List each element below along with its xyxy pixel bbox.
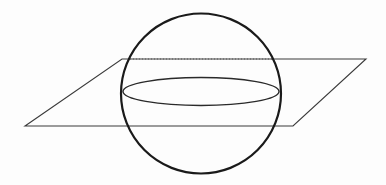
sphere-plane-diagram xyxy=(0,0,386,185)
geometry-figure-canvas xyxy=(0,0,386,185)
figure-background xyxy=(0,0,386,185)
